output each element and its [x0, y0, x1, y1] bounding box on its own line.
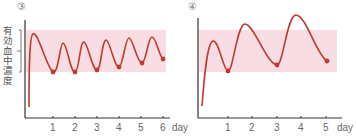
effective-band [26, 30, 166, 72]
x-tick-label: 5 [138, 122, 144, 133]
x-tick-label: 3 [274, 122, 280, 133]
x-tick-label: 6 [160, 122, 166, 133]
x-axis-unit: day [172, 122, 188, 133]
ylabel-bracket [17, 30, 21, 72]
chart-panel-4: ④ 1 2 3 4 5 day [188, 1, 353, 133]
y-axis-label: 有効血中濃度 [2, 26, 13, 86]
x-tick-label: 1 [225, 122, 231, 133]
x-tick-label: 5 [323, 122, 329, 133]
panel-label-4: ④ [188, 1, 197, 12]
x-tick-label: 4 [298, 122, 304, 133]
x-tick-label: 1 [50, 122, 56, 133]
x-axis-unit: day [337, 122, 353, 133]
chart-panel-3: ③ 1 2 3 4 5 6 day [17, 1, 188, 133]
x-tick-label: 4 [116, 122, 122, 133]
chart-canvas: ③ 1 2 3 4 5 6 day [0, 0, 356, 138]
x-tick-label: 3 [94, 122, 100, 133]
x-tick-label: 2 [249, 122, 255, 133]
x-tick-label: 2 [72, 122, 78, 133]
panel-label-3: ③ [17, 1, 26, 12]
